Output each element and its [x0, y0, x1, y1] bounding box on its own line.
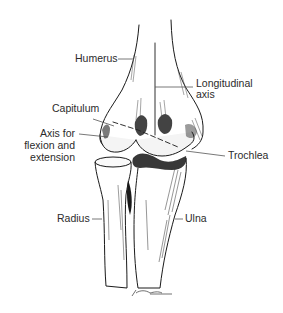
radial-head [95, 157, 131, 167]
elbow-anatomy-diagram: Humerus Longitudinal axis Capitulum Axis… [0, 0, 283, 313]
artist-signature [132, 290, 172, 296]
label-ulna: Ulna [185, 213, 207, 224]
label-humerus: Humerus [75, 53, 118, 64]
label-trochlea: Trochlea [228, 150, 268, 161]
trochlea-leader [186, 151, 225, 156]
label-radius: Radius [57, 213, 90, 224]
label-longitudinal-axis-line2: axis [196, 89, 215, 100]
ulna-outline [134, 168, 138, 288]
label-axis-flexion-line3: extension [10, 152, 75, 163]
label-axis-flexion-line1: Axis for [20, 128, 75, 139]
radius-outline [95, 162, 106, 286]
label-axis-flexion-line2: flexion and [10, 140, 75, 151]
label-capitulum: Capitulum [52, 103, 99, 114]
